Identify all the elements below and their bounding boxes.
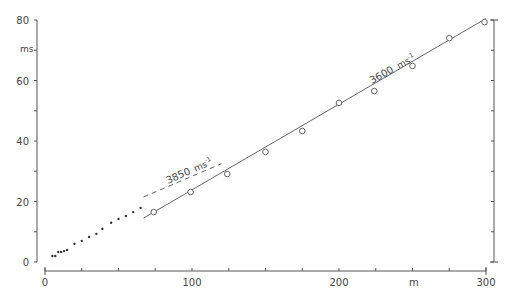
- x-tick-label: 100: [182, 277, 201, 288]
- y-unit-label: ms: [20, 44, 34, 54]
- x-tick-label: 300: [476, 277, 495, 288]
- tick-labels: 0204060800100200300: [16, 15, 495, 288]
- data-point-dot: [73, 243, 75, 245]
- data-point-dot: [63, 250, 65, 252]
- data-point-dot: [57, 251, 59, 253]
- y-tick-label: 80: [16, 15, 29, 26]
- y-tick-label: 20: [16, 197, 29, 208]
- x-unit-label: m: [409, 277, 419, 288]
- data-point-circle: [151, 209, 157, 215]
- axes: [34, 20, 498, 275]
- data-point-circle: [482, 19, 488, 25]
- data-points: [51, 19, 487, 257]
- svg-text:3850: 3850: [164, 165, 192, 185]
- data-point-dot: [95, 233, 97, 235]
- data-point-dot: [81, 240, 83, 242]
- travel-time-chart: 0204060800100200300 ms m 3850 ms -1 3600…: [0, 0, 511, 304]
- data-point-dot: [110, 221, 112, 223]
- data-point-circle: [188, 189, 194, 195]
- data-point-circle: [371, 88, 377, 94]
- data-point-circle: [299, 128, 305, 134]
- svg-text:-1: -1: [203, 155, 211, 164]
- data-point-dot: [139, 207, 141, 209]
- data-point-dot: [101, 228, 103, 230]
- x-tick-label: 200: [329, 277, 348, 288]
- data-point-dot: [88, 236, 90, 238]
- fit-line-3600: [143, 18, 486, 218]
- data-point-dot: [132, 211, 134, 213]
- data-point-circle: [336, 100, 342, 106]
- data-point-circle: [446, 35, 452, 41]
- x-tick-label: 0: [42, 277, 48, 288]
- fit-lines: [143, 18, 486, 218]
- annotation-3600: 3600 ms -1: [367, 51, 417, 86]
- y-tick-label: 0: [23, 257, 29, 268]
- data-point-dot: [54, 255, 56, 257]
- data-point-dot: [66, 249, 68, 251]
- data-point-dot: [125, 215, 127, 217]
- data-point-dot: [51, 255, 53, 257]
- svg-text:3600: 3600: [368, 64, 396, 86]
- data-point-dot: [60, 251, 62, 253]
- y-tick-label: 60: [16, 76, 29, 87]
- y-tick-label: 40: [16, 136, 29, 147]
- data-point-circle: [224, 171, 230, 177]
- data-point-circle: [263, 149, 269, 155]
- data-point-dot: [117, 218, 119, 220]
